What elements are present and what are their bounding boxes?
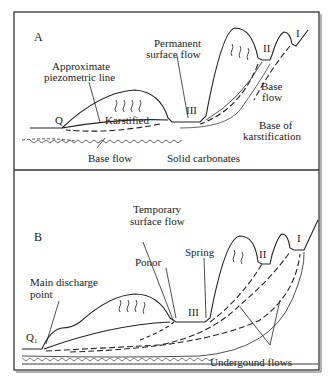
panel-a-text: A Approximate piezometric line Permanent… — [34, 27, 302, 164]
solid-carbonates-label: Solid carbonates — [167, 152, 240, 164]
level-i-label-b: I — [297, 232, 301, 244]
base-flow-bottom-label: Base flow — [88, 152, 132, 164]
karstified-label: Karstified — [105, 114, 149, 126]
underground-flows-label: Undergound flows — [210, 356, 292, 368]
panel-b-text: B Temporary surface flow Ponor Spring Ma… — [26, 203, 301, 368]
level-i-label: I — [296, 27, 300, 39]
temporary-flow-label-line1: Temporary — [133, 203, 182, 215]
level-iii-label-b: III — [188, 306, 199, 318]
level-iii-label: III — [186, 104, 197, 116]
karst-diagram: A Approximate piezometric line Permanent… — [0, 0, 334, 386]
q-label: Q — [55, 114, 63, 126]
spring-label: Spring — [185, 246, 215, 258]
permanent-flow-label-line2: surface flow — [146, 48, 201, 60]
main-discharge-label-line1: Main discharge — [30, 276, 98, 288]
ponor-label: Ponor — [135, 256, 162, 268]
temporary-flow-label-line2: surface flow — [130, 215, 185, 227]
panel-b-piezometric-line — [44, 322, 170, 349]
panel-a-letter: A — [34, 30, 43, 44]
base-karst-label-line2: karstification — [243, 130, 302, 142]
level-ii-label: II — [263, 42, 271, 54]
piezometric-label-line2: piezometric line — [44, 71, 115, 83]
main-discharge-label-line2: point — [30, 288, 53, 300]
q1-label: Q1 — [26, 331, 38, 345]
panel-a-karst-base — [30, 140, 182, 143]
panel-b-karst-base — [22, 252, 304, 357]
panel-b — [22, 220, 318, 364]
level-ii-label-b: II — [259, 248, 267, 260]
base-flow-right-label-line2: flow — [262, 91, 282, 103]
panel-b-letter: B — [34, 230, 42, 244]
